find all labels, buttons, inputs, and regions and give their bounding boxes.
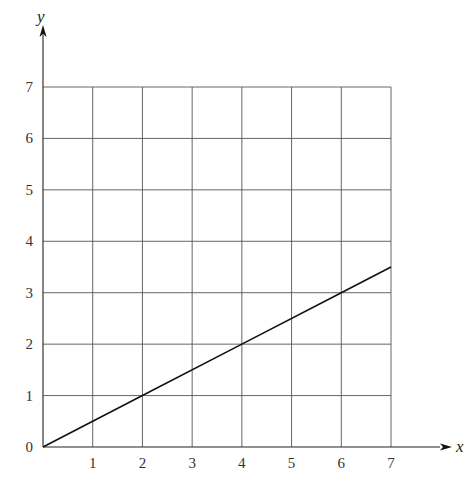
x-tick-label: 1: [89, 455, 97, 471]
y-tick-label: 3: [26, 285, 34, 301]
x-tick-label: 7: [387, 455, 395, 471]
data-line: [43, 267, 391, 447]
y-tick-label: 5: [26, 182, 34, 198]
chart: xy123456701234567: [0, 0, 471, 478]
x-tick-label: 3: [188, 455, 196, 471]
y-tick-label: 2: [26, 336, 34, 352]
grid: [43, 87, 391, 447]
y-tick-label: 1: [26, 388, 34, 404]
y-tick-label: 7: [26, 79, 34, 95]
y-tick-label: 4: [26, 233, 34, 249]
y-tick-label: 0: [26, 439, 34, 455]
y-axis-label: y: [35, 7, 45, 26]
x-tick-label: 2: [139, 455, 147, 471]
x-axis-arrow-icon: [440, 444, 452, 451]
y-tick-label: 6: [26, 130, 34, 146]
x-tick-label: 6: [338, 455, 346, 471]
x-tick-label: 4: [238, 455, 246, 471]
x-axis-label: x: [455, 437, 464, 456]
x-tick-label: 5: [288, 455, 296, 471]
